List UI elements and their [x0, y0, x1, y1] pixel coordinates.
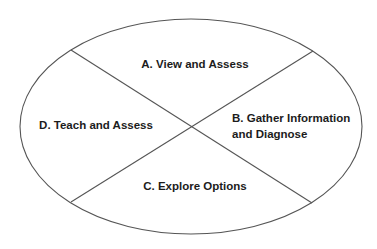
quadrant-d-text: D. Teach and Assess [39, 117, 153, 133]
quadrant-c-label: C. Explore Options [143, 178, 247, 194]
quadrant-b-text-line2: and Diagnose [232, 126, 350, 142]
quadrant-c-text: C. Explore Options [143, 178, 247, 194]
quadrant-a-text: A. View and Assess [141, 56, 248, 72]
quadrant-b-label: B. Gather Information and Diagnose [232, 110, 350, 142]
quadrant-b-text-line1: B. Gather Information [232, 110, 350, 126]
quadrant-d-label: D. Teach and Assess [39, 117, 153, 133]
quadrant-a-label: A. View and Assess [141, 56, 248, 72]
